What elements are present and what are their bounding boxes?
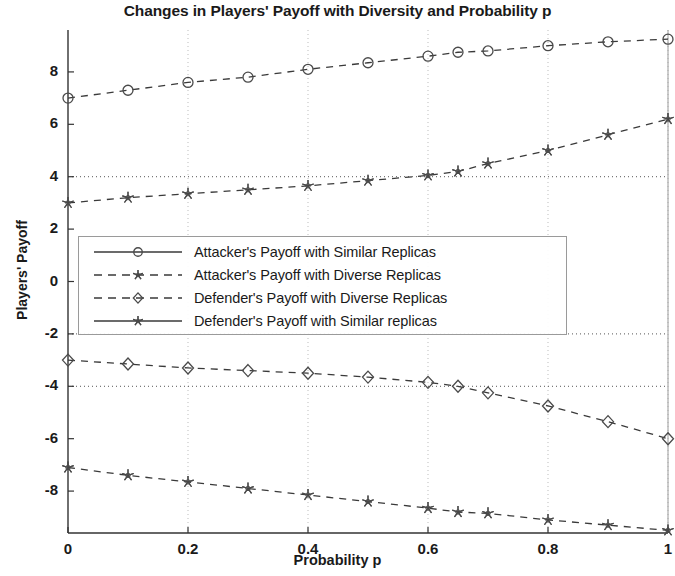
x-tick-label: 0	[48, 540, 88, 557]
chart-figure: Changes in Players' Payoff with Diversit…	[0, 0, 675, 576]
y-tick-label: 8	[28, 62, 58, 79]
legend-item[interactable]: Defender's Payoff with Diverse Replicas	[79, 286, 566, 309]
legend-label: Defender's Payoff with Similar replicas	[186, 313, 437, 329]
data-point-asterisk-marker	[482, 158, 493, 169]
data-point-star-marker	[182, 476, 193, 487]
y-tick-label: -2	[28, 324, 58, 341]
legend-label: Attacker's Payoff with Similar Replicas	[186, 244, 436, 260]
x-tick-label: 0.2	[168, 540, 208, 557]
data-point-asterisk-marker	[302, 180, 313, 191]
y-tick-label: 6	[28, 114, 58, 131]
legend-sample-circle-icon	[90, 242, 186, 262]
data-point-diamond-marker	[603, 416, 614, 428]
legend-sample-star-icon	[90, 311, 186, 331]
legend-item[interactable]: Attacker's Payoff with Similar Replicas	[79, 240, 566, 263]
data-point-star-marker	[452, 506, 463, 517]
legend-sample-asterisk-icon	[90, 265, 186, 285]
series-line	[68, 39, 668, 98]
y-tick-label: 2	[28, 219, 58, 236]
chart-legend: Attacker's Payoff with Similar ReplicasA…	[78, 236, 567, 335]
x-tick-label: 0.4	[288, 540, 328, 557]
y-tick-label: -4	[28, 376, 58, 393]
series-3	[62, 462, 673, 536]
data-point-star-marker	[542, 514, 553, 525]
data-point-asterisk-marker	[133, 269, 143, 278]
series-2	[63, 354, 674, 445]
legend-item[interactable]: Attacker's Payoff with Diverse Replicas	[79, 263, 566, 286]
x-tick-label: 0.6	[408, 540, 448, 557]
data-point-star-marker	[422, 502, 433, 513]
x-tick-label: 1	[648, 540, 675, 557]
data-point-star-marker	[133, 315, 143, 324]
y-tick-label: -6	[28, 429, 58, 446]
series-1	[62, 113, 673, 208]
data-point-star-marker	[242, 482, 253, 493]
legend-label: Attacker's Payoff with Diverse Replicas	[186, 267, 441, 283]
data-point-asterisk-marker	[182, 188, 193, 199]
legend-label: Defender's Payoff with Diverse Replicas	[186, 290, 447, 306]
data-point-asterisk-marker	[122, 192, 133, 203]
data-point-star-marker	[362, 496, 373, 507]
y-tick-label: 0	[28, 272, 58, 289]
legend-item[interactable]: Defender's Payoff with Similar replicas	[79, 309, 566, 332]
series-0	[63, 34, 673, 103]
legend-sample-diamond-icon	[90, 288, 186, 308]
y-tick-label: -8	[28, 481, 58, 498]
series-line	[68, 119, 668, 203]
y-tick-label: 4	[28, 167, 58, 184]
x-tick-label: 0.8	[528, 540, 568, 557]
